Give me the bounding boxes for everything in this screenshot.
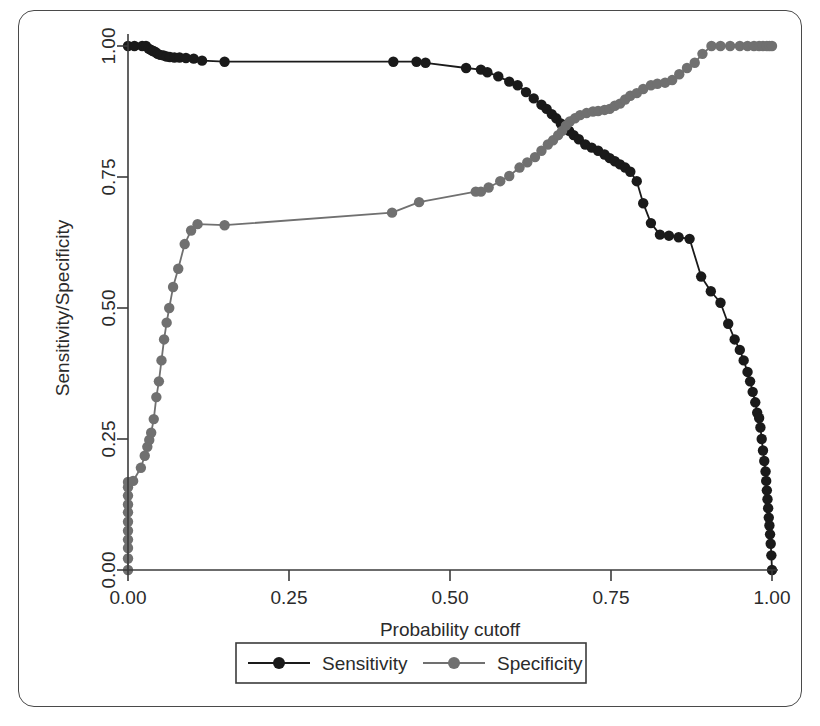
- data-point: [758, 445, 768, 455]
- series-specificity: [123, 41, 777, 575]
- series-sensitivity: [123, 41, 777, 575]
- data-point: [655, 229, 665, 239]
- data-point: [493, 71, 503, 81]
- data-point: [750, 397, 760, 407]
- data-point: [745, 376, 755, 386]
- data-point: [179, 239, 189, 249]
- data-point: [747, 387, 757, 397]
- y-axis-title: Sensitivity/Specificity: [52, 219, 73, 396]
- data-point: [140, 451, 150, 461]
- y-tick-label: 0.25: [98, 421, 119, 458]
- series-line-specificity: [128, 46, 772, 570]
- data-point: [664, 230, 674, 240]
- data-point: [764, 520, 774, 530]
- legend-marker: [448, 657, 460, 669]
- data-point: [697, 49, 707, 59]
- data-point: [706, 41, 716, 51]
- data-point: [161, 317, 171, 327]
- x-tick-label: 1.00: [754, 587, 791, 608]
- series-layer: [123, 41, 777, 575]
- y-tick-label: 0.75: [98, 159, 119, 196]
- data-point: [723, 319, 733, 329]
- chart-legend: SensitivitySpecificity: [236, 643, 586, 683]
- data-point: [757, 434, 767, 444]
- data-point: [420, 58, 430, 68]
- data-point: [673, 232, 683, 242]
- data-point: [168, 282, 178, 292]
- data-point: [762, 485, 772, 495]
- x-tick-label: 0.75: [593, 587, 630, 608]
- data-point: [482, 67, 492, 77]
- data-point: [706, 286, 716, 296]
- data-point: [646, 218, 656, 228]
- data-point: [411, 57, 421, 67]
- data-point: [754, 413, 764, 423]
- x-tick-label: 0.00: [110, 587, 147, 608]
- data-point: [128, 476, 138, 486]
- legend-marker: [273, 657, 285, 669]
- data-point: [151, 392, 161, 402]
- data-point: [414, 197, 424, 207]
- data-point: [766, 550, 776, 560]
- data-point: [738, 355, 748, 365]
- x-tick-label: 0.50: [432, 587, 469, 608]
- data-point: [761, 476, 771, 486]
- data-point: [512, 80, 522, 90]
- data-point: [625, 167, 635, 177]
- y-tick-label: 0.00: [98, 552, 119, 589]
- data-point: [164, 303, 174, 313]
- data-point: [387, 207, 397, 217]
- data-point: [495, 176, 505, 186]
- data-point: [388, 57, 398, 67]
- data-point: [715, 298, 725, 308]
- data-point: [729, 334, 739, 344]
- data-point: [715, 41, 725, 51]
- data-point: [219, 220, 229, 230]
- data-point: [136, 463, 146, 473]
- x-tick-label: 0.25: [271, 587, 308, 608]
- data-point: [755, 422, 765, 432]
- data-point: [504, 171, 514, 181]
- legend-label: Specificity: [497, 653, 583, 674]
- data-point: [690, 58, 700, 68]
- axis-labels-layer: 0.000.250.500.751.000.000.250.500.751.00…: [52, 28, 791, 640]
- data-point: [762, 494, 772, 504]
- data-point: [461, 63, 471, 73]
- chart-canvas: 0.000.250.500.751.000.000.250.500.751.00…: [0, 0, 820, 726]
- series-line-sensitivity: [128, 46, 772, 570]
- data-point: [159, 334, 169, 344]
- data-point: [146, 428, 156, 438]
- legend-label: Sensitivity: [322, 653, 408, 674]
- data-point: [154, 376, 164, 386]
- data-point: [725, 41, 735, 51]
- data-point: [149, 414, 159, 424]
- data-point: [173, 264, 183, 274]
- data-point: [759, 456, 769, 466]
- data-point: [197, 55, 207, 65]
- data-point: [767, 41, 777, 51]
- data-point: [696, 271, 706, 281]
- axes-layer: [117, 34, 778, 581]
- data-point: [219, 57, 229, 67]
- data-point: [684, 234, 694, 244]
- data-point: [156, 355, 166, 365]
- figure-root: 0.000.250.500.751.000.000.250.500.751.00…: [0, 0, 820, 726]
- y-tick-label: 1.00: [98, 28, 119, 65]
- data-point: [763, 503, 773, 513]
- data-point: [735, 345, 745, 355]
- x-axis-title: Probability cutoff: [380, 619, 521, 640]
- data-point: [632, 176, 642, 186]
- data-point: [760, 466, 770, 476]
- data-point: [766, 539, 776, 549]
- data-point: [742, 367, 752, 377]
- data-point: [765, 529, 775, 539]
- data-point: [192, 219, 202, 229]
- y-tick-label: 0.50: [98, 290, 119, 327]
- data-point: [638, 198, 648, 208]
- data-point: [483, 182, 493, 192]
